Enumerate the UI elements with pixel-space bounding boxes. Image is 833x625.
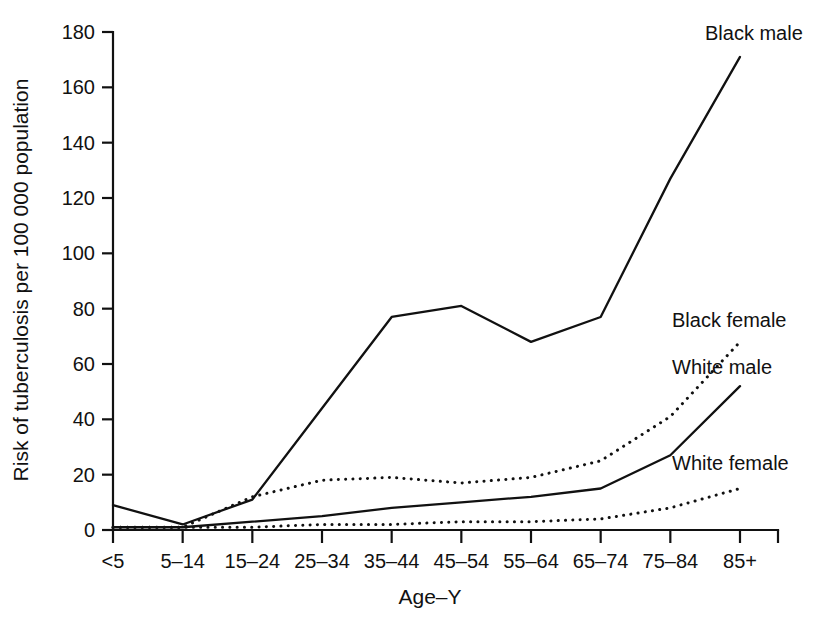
- x-tick-label: 15–24: [225, 550, 281, 572]
- series-line-black-male: [113, 57, 740, 525]
- x-tick-label: 75–84: [643, 550, 699, 572]
- x-tick-label: 35–44: [364, 550, 420, 572]
- series-label-black-female: Black female: [672, 309, 787, 331]
- x-axis: <55–1415–2425–3435–4445–5455–6465–7475–8…: [102, 530, 778, 572]
- series-label-white-female: White female: [672, 452, 789, 474]
- y-axis-title: Risk of tuberculosis per 100 000 populat…: [9, 79, 32, 482]
- x-tick-label: 65–74: [573, 550, 629, 572]
- x-tick-label: 55–64: [503, 550, 559, 572]
- y-tick-label: 0: [84, 519, 95, 541]
- y-tick-label: 80: [73, 298, 95, 320]
- y-tick-label: 180: [62, 21, 95, 43]
- x-tick-label: 25–34: [294, 550, 350, 572]
- series-lines: [113, 57, 740, 527]
- series-line-black-female: [113, 342, 740, 527]
- chart-container: 020406080100120140160180 <55–1415–2425–3…: [0, 0, 833, 625]
- x-tick-label: 85+: [723, 550, 757, 572]
- series-line-white-male: [113, 386, 740, 527]
- y-tick-label: 140: [62, 132, 95, 154]
- series-label-white-male: White male: [672, 356, 772, 378]
- y-tick-label: 120: [62, 187, 95, 209]
- y-tick-label: 40: [73, 408, 95, 430]
- y-tick-label: 100: [62, 242, 95, 264]
- y-tick-label: 160: [62, 76, 95, 98]
- y-axis: 020406080100120140160180: [62, 21, 113, 541]
- series-line-white-female: [113, 489, 740, 528]
- line-chart: 020406080100120140160180 <55–1415–2425–3…: [0, 0, 833, 625]
- y-tick-label: 20: [73, 464, 95, 486]
- x-tick-label: <5: [102, 550, 125, 572]
- x-axis-title: Age–Y: [398, 585, 461, 608]
- x-tick-label: 5–14: [160, 550, 205, 572]
- series-annotations: Black maleBlack femaleWhite maleWhite fe…: [672, 22, 803, 474]
- x-tick-label: 45–54: [434, 550, 490, 572]
- series-label-black-male: Black male: [705, 22, 803, 44]
- y-tick-label: 60: [73, 353, 95, 375]
